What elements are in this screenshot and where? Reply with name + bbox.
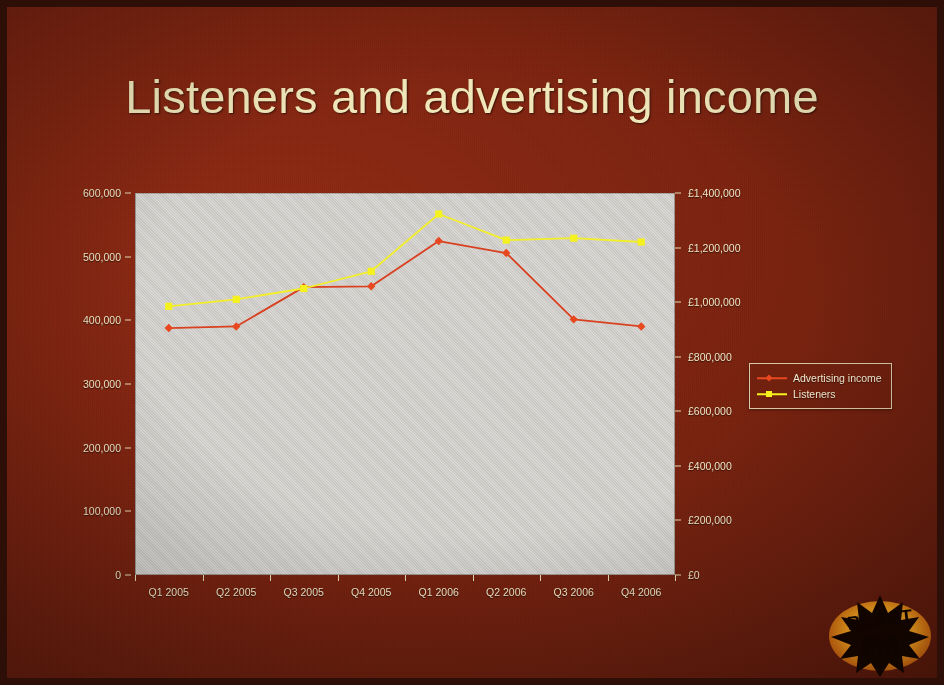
legend-item[interactable]: Listeners: [757, 386, 882, 402]
legend-key-swatch: [757, 388, 787, 400]
legend-square-marker-icon: [766, 391, 772, 397]
category-axis-label: Q4 2006: [621, 586, 661, 598]
category-axis-tick: [675, 575, 676, 581]
right-axis-tick: [675, 193, 681, 194]
category-axis-label: Q2 2006: [486, 586, 526, 598]
right-axis-tick-label: £1,000,000: [688, 296, 741, 308]
legend-item[interactable]: Advertising income: [757, 370, 882, 386]
category-axis: Q1 2005Q2 2005Q3 2005Q4 2005Q1 2006Q2 20…: [135, 575, 675, 605]
series-line-listeners: [169, 214, 642, 306]
right-axis-tick: [675, 302, 681, 303]
right-axis-tick: [675, 356, 681, 357]
left-axis-tick-label: 300,000: [83, 378, 121, 390]
data-point-marker: [232, 322, 240, 330]
data-point-marker: [368, 268, 375, 275]
category-axis-tick: [473, 575, 474, 581]
legend-label: Advertising income: [793, 372, 882, 384]
category-axis-tick: [270, 575, 271, 581]
category-axis-tick: [608, 575, 609, 581]
left-axis-tick: [125, 447, 131, 448]
left-axis-tick: [125, 256, 131, 257]
left-axis-tick-label: 400,000: [83, 314, 121, 326]
left-axis-tick: [125, 384, 131, 385]
category-axis-tick: [135, 575, 136, 581]
right-axis-tick-label: £0: [688, 569, 700, 581]
category-axis-tick: [203, 575, 204, 581]
category-axis-label: Q1 2006: [419, 586, 459, 598]
left-value-axis: 0100,000200,000300,000400,000500,000600,…: [7, 193, 131, 575]
data-point-marker: [165, 303, 172, 310]
left-axis-tick: [125, 575, 131, 576]
legend-key-swatch: [757, 372, 787, 384]
left-axis-tick-label: 100,000: [83, 505, 121, 517]
category-axis-tick: [338, 575, 339, 581]
blast-fm-logo: BLAST FM: [825, 593, 935, 679]
left-axis-tick-label: 0: [115, 569, 121, 581]
chart-legend: Advertising incomeListeners: [749, 363, 892, 409]
category-axis-label: Q1 2005: [149, 586, 189, 598]
right-axis-tick-label: £1,400,000: [688, 187, 741, 199]
left-axis-tick: [125, 320, 131, 321]
left-axis-tick: [125, 511, 131, 512]
data-point-marker: [300, 285, 307, 292]
right-axis-tick: [675, 465, 681, 466]
data-point-marker: [637, 322, 645, 330]
legend-label: Listeners: [793, 388, 836, 400]
category-axis-tick: [405, 575, 406, 581]
data-point-marker: [233, 296, 240, 303]
right-axis-tick-label: £600,000: [688, 405, 732, 417]
right-axis-tick: [675, 520, 681, 521]
right-axis-tick-label: £200,000: [688, 514, 732, 526]
data-point-marker: [435, 210, 442, 217]
category-axis-tick: [540, 575, 541, 581]
chart-series-svg: [135, 193, 675, 575]
legend-line: [757, 393, 787, 395]
data-point-marker: [503, 237, 510, 244]
data-point-marker: [570, 235, 577, 242]
legend-diamond-marker-icon: [765, 374, 772, 381]
category-axis-label: Q3 2006: [554, 586, 594, 598]
category-axis-label: Q3 2005: [284, 586, 324, 598]
right-axis-tick: [675, 411, 681, 412]
right-axis-tick: [675, 247, 681, 248]
data-point-marker: [638, 238, 645, 245]
logo-line-2: FM: [824, 628, 935, 665]
category-axis-label: Q4 2005: [351, 586, 391, 598]
category-axis-label: Q2 2005: [216, 586, 256, 598]
right-axis-tick-label: £1,200,000: [688, 242, 741, 254]
right-axis-tick-label: £800,000: [688, 351, 732, 363]
right-axis-tick-label: £400,000: [688, 460, 732, 472]
left-axis-tick-label: 500,000: [83, 251, 121, 263]
left-axis-tick-label: 600,000: [83, 187, 121, 199]
left-axis-tick-label: 200,000: [83, 442, 121, 454]
slide-title: Listeners and advertising income: [7, 69, 937, 124]
presentation-slide: Listeners and advertising income 0100,00…: [0, 0, 944, 685]
line-chart-plot-area: [135, 193, 675, 575]
left-axis-tick: [125, 193, 131, 194]
series-line-advertising-income: [169, 241, 642, 328]
data-point-marker: [165, 324, 173, 332]
